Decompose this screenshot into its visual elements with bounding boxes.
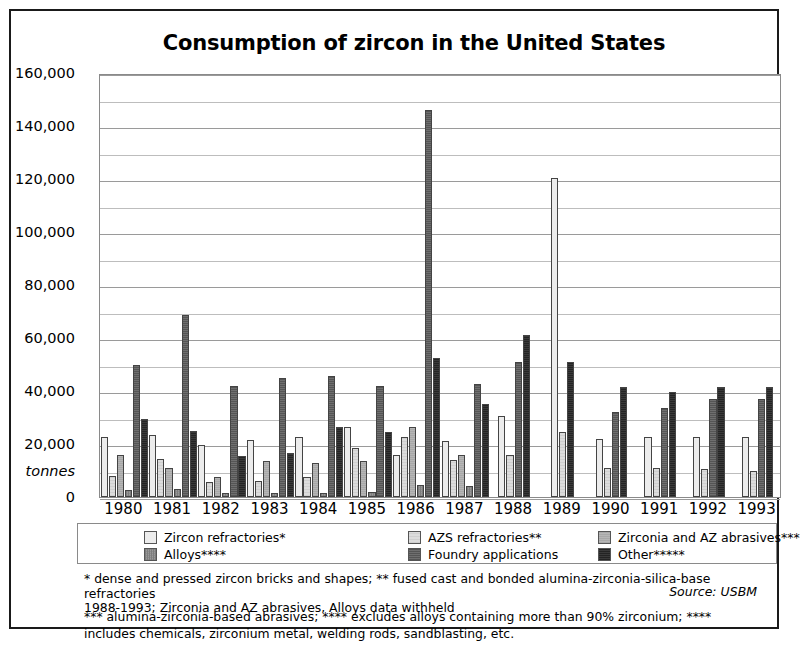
bar [450,460,457,497]
bar [701,469,708,497]
x-tick-1990: 1990 [586,500,635,518]
x-axis-tick-labels: 1980198119821983198419851986198719881989… [99,500,781,522]
x-tick-1992: 1992 [684,500,733,518]
bar [344,427,351,497]
bar [409,427,416,497]
bar [433,358,440,497]
bar [157,459,164,497]
bar [328,376,335,497]
x-tick-1989: 1989 [537,500,586,518]
x-tick-1980: 1980 [99,500,148,518]
bar-group-1987 [441,75,490,497]
bar [109,476,116,497]
y-tick-80000: 80,000 [0,277,75,293]
bar [182,315,189,497]
bar [393,455,400,497]
bar-series-container [100,75,780,497]
bar [604,468,611,497]
bar-group-1988 [490,75,539,497]
bar [279,378,286,497]
bar [287,453,294,497]
bar-group-1983 [246,75,295,497]
legend-item: Zircon refractories* [144,529,286,546]
bar [238,456,245,497]
bar-group-1984 [295,75,344,497]
legend-label: AZS refractories** [428,530,542,545]
legend-item: Zirconia and AZ abrasives*** [598,529,800,546]
bar-group-1981 [149,75,198,497]
y-tick-100000: 100,000 [0,224,75,240]
bar [515,362,522,497]
bar [360,461,367,497]
bar-group-1985 [344,75,393,497]
bar [766,387,773,497]
bar [717,387,724,497]
bar [709,399,716,497]
legend-item: Foundry applications [408,546,558,563]
bar [352,448,359,497]
bar [442,441,449,497]
bar [506,455,513,497]
legend-item: Other***** [598,546,685,563]
chart-legend: Zircon refractories*AZS refractories**Zi… [77,523,777,564]
bar [644,437,651,497]
legend-swatch-icon [598,531,611,544]
bar [612,412,619,497]
bar-group-1980 [100,75,149,497]
bar-group-1992 [685,75,734,497]
footnote-line-3: includes chemicals, zirconium metal, wel… [84,626,774,641]
bar [482,404,489,497]
bar [750,471,757,498]
x-tick-1986: 1986 [391,500,440,518]
legend-swatch-icon [144,548,157,561]
bar [198,445,205,497]
bar [596,439,603,497]
x-tick-1983: 1983 [245,500,294,518]
bar [206,482,213,497]
x-tick-1984: 1984 [294,500,343,518]
legend-swatch-icon [408,531,421,544]
bar-group-1982 [197,75,246,497]
legend-label: Zirconia and AZ abrasives*** [618,530,800,545]
x-tick-1988: 1988 [489,500,538,518]
bar [417,485,424,497]
bar [661,408,668,497]
bar-group-1991 [636,75,685,497]
bar [669,392,676,497]
y-tick-140000: 140,000 [0,118,75,134]
bar [101,437,108,497]
bar [117,455,124,497]
bar [312,463,319,497]
plot-area [99,74,781,498]
bar [133,365,140,498]
bar [303,477,310,497]
bar [230,386,237,497]
bar [458,455,465,497]
legend-swatch-icon [598,548,611,561]
chart-title: Consumption of zircon in the United Stat… [11,31,797,55]
x-tick-1982: 1982 [196,500,245,518]
bar [174,489,181,497]
bar [498,416,505,497]
source-credit: Source: USBM [669,584,757,599]
bar-group-1989 [538,75,587,497]
y-tick-20000: 20,000 [0,436,75,452]
bar-group-1986 [392,75,441,497]
bar [271,493,278,497]
bar [222,493,229,497]
legend-label: Other***** [618,547,685,562]
x-tick-1991: 1991 [635,500,684,518]
y-tick-160000: 160,000 [0,65,75,81]
x-tick-1993: 1993 [732,500,781,518]
footnote-withheld: 1988-1993; Zirconia and AZ abrasives, Al… [84,600,455,615]
bar [165,468,172,497]
bar [653,468,660,497]
bar [214,477,221,497]
bar [295,437,302,497]
bar [401,437,408,497]
bar [523,335,530,497]
bar [125,490,132,497]
bar [149,435,156,497]
bar [559,432,566,497]
y-tick-40000: 40,000 [0,383,75,399]
